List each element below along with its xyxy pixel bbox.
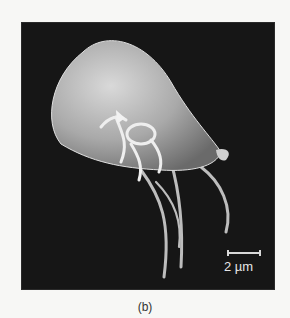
micrograph-panel: 2 µm — [21, 22, 275, 290]
scale-bar-label: 2 µm — [224, 259, 253, 274]
scale-bar — [227, 250, 261, 256]
panel-label: (b) — [0, 300, 290, 314]
